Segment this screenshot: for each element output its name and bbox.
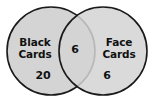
set-label-right-line1: Face <box>106 36 133 48</box>
set-label-right-line2: Cards <box>102 48 135 60</box>
left-exclusive-count-label: 20 <box>31 70 55 82</box>
right-exclusive-count-label: 6 <box>97 70 117 82</box>
set-label-left: Black Cards <box>11 37 59 61</box>
intersection-count-label: 6 <box>64 44 86 56</box>
venn-diagram: Black Cards Face Cards 6 20 6 <box>0 0 154 102</box>
set-label-left-line1: Black <box>19 36 50 48</box>
set-label-left-line2: Cards <box>18 48 51 60</box>
set-label-right: Face Cards <box>95 37 143 61</box>
